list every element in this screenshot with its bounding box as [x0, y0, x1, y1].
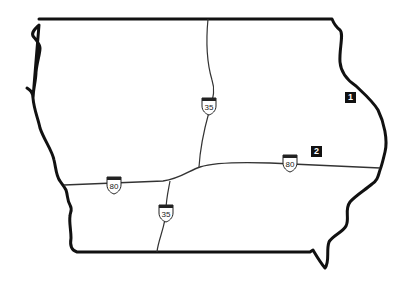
- shield-label: 35: [162, 210, 171, 219]
- marker-1: 1: [345, 92, 356, 103]
- shield-label: 35: [205, 103, 214, 112]
- shield-i80-east: 80: [283, 155, 297, 172]
- highway-i35-north: [199, 19, 214, 167]
- shield-i80-west: 80: [107, 177, 121, 194]
- state-border: [27, 19, 386, 268]
- shield-label: 80: [110, 182, 119, 191]
- marker-2: 2: [311, 146, 322, 157]
- iowa-map: 35 35 80 80: [0, 0, 420, 291]
- shield-label: 80: [286, 160, 295, 169]
- shield-i35-north: 35: [202, 98, 216, 115]
- shield-i35-south: 35: [159, 205, 173, 222]
